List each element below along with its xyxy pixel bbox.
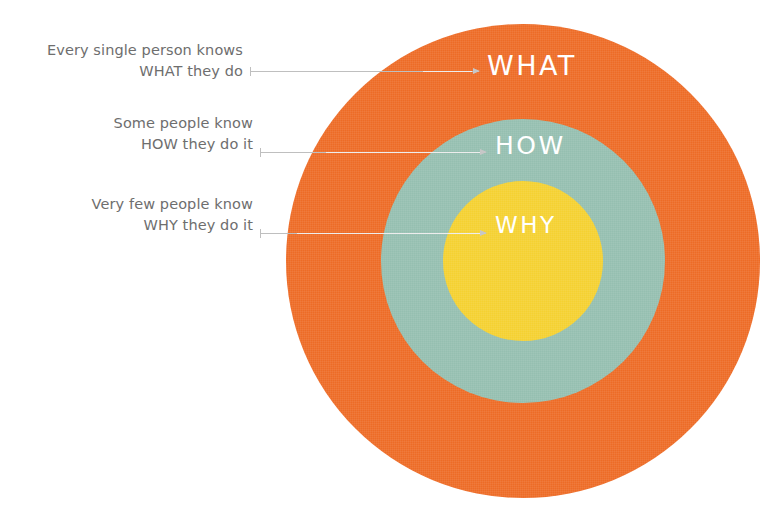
cropped-title-remnant (300, 0, 600, 7)
leader-segment-over-orange-what (423, 71, 472, 72)
caption-what-line2: WHAT they do (0, 61, 243, 82)
caption-why-line2: WHY they do it (0, 215, 253, 236)
leader-arrowhead-why (480, 230, 487, 236)
leader-arrowhead-what (473, 68, 480, 74)
caption-why: Very few people know WHY they do it (0, 194, 253, 236)
caption-how-line1: Some people know (0, 113, 253, 134)
caption-what: Every single person knows WHAT they do (0, 40, 243, 82)
leader-segment-over-rings-why (297, 233, 485, 234)
leader-tick-what (250, 67, 251, 76)
leader-segment-over-rings-how (326, 152, 485, 153)
leader-tick-how (260, 148, 261, 157)
caption-how: Some people know HOW they do it (0, 113, 253, 155)
leader-arrowhead-how (480, 149, 487, 155)
ring-label-why: WHY (495, 212, 557, 238)
golden-circle-diagram: WHAT HOW WHY Every single person knows W… (0, 0, 779, 526)
ring-label-what: WHAT (487, 50, 577, 81)
leader-tick-why (260, 229, 261, 238)
leader-line-what (250, 71, 479, 72)
caption-why-line1: Very few people know (0, 194, 253, 215)
ring-label-how: HOW (495, 131, 566, 160)
caption-what-line1: Every single person knows (0, 40, 243, 61)
caption-how-line2: HOW they do it (0, 134, 253, 155)
leader-line-why (260, 233, 486, 234)
leader-line-how (260, 152, 486, 153)
ring-why (443, 181, 603, 341)
